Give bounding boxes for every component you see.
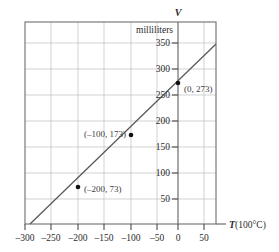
xticklabel--250: –250 bbox=[41, 233, 61, 243]
data-point-label: (–100, 173) bbox=[84, 129, 126, 139]
data-point-label: (–200, 73) bbox=[84, 184, 122, 194]
y-axis-ticks bbox=[172, 43, 178, 199]
data-point-labels: (–200, 73) (–100, 173) (0, 273) bbox=[84, 84, 213, 194]
xticklabel--100: –100 bbox=[121, 233, 141, 243]
yticklabel-350: 350 bbox=[156, 38, 171, 48]
x-axis-tick-labels: –300 –250 –200 –150 –100 –50 0 50 bbox=[15, 233, 210, 243]
xticklabel--50: –50 bbox=[149, 233, 165, 243]
xticklabel--200: –200 bbox=[68, 233, 88, 243]
yticklabel-150: 150 bbox=[156, 142, 171, 152]
xticklabel-0: 0 bbox=[176, 233, 181, 243]
vertical-gridlines bbox=[51, 22, 204, 224]
y-axis-unit-label: milliliters bbox=[136, 25, 173, 35]
volume-temperature-line-chart: 50 100 150 200 250 300 350 milliliters V… bbox=[0, 0, 279, 252]
chart-figure: 50 100 150 200 250 300 350 milliliters V… bbox=[0, 0, 279, 252]
yticklabel-200: 200 bbox=[156, 116, 171, 126]
yticklabel-300: 300 bbox=[156, 64, 171, 74]
x-axis-ticks bbox=[25, 224, 204, 230]
yticklabel-50: 50 bbox=[161, 194, 171, 204]
horizontal-gridlines bbox=[25, 43, 216, 199]
xticklabel--150: –150 bbox=[94, 233, 114, 243]
data-point-marker[interactable] bbox=[176, 81, 181, 86]
t-axis-label-group: T(100°C) bbox=[229, 219, 266, 231]
y-axis-tick-labels: 50 100 150 200 250 300 350 bbox=[156, 38, 171, 204]
yticklabel-100: 100 bbox=[156, 168, 171, 178]
data-point-marker[interactable] bbox=[76, 185, 81, 190]
yticklabel-250: 250 bbox=[156, 90, 171, 100]
data-point-label: (0, 273) bbox=[184, 84, 213, 94]
v-axis-label: V bbox=[175, 7, 183, 18]
t-axis-unit: (100°C) bbox=[235, 220, 266, 231]
data-point-marker[interactable] bbox=[129, 133, 134, 138]
xticklabel-50: 50 bbox=[199, 233, 209, 243]
xticklabel--300: –300 bbox=[15, 233, 35, 243]
